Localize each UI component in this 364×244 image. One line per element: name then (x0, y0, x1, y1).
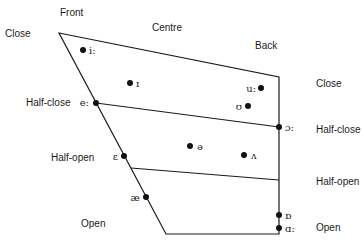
label-half-open-right: Half-open (316, 176, 359, 187)
label-close-left: Close (5, 28, 31, 39)
vowel-dot-icon (276, 124, 282, 130)
vowel-point: i: (80, 45, 96, 56)
vowel-point: ʊ (236, 101, 251, 112)
label-half-close-right: Half-close (316, 124, 361, 135)
label-open-right: Open (316, 222, 340, 233)
vowel-symbol: u: (246, 83, 256, 94)
vowel-symbol: ɛ (113, 151, 118, 162)
label-half-open-left: Half-open (51, 152, 94, 163)
vowel-point: u: (246, 83, 264, 94)
vowel-dot-icon (127, 80, 133, 86)
vowel-point: ɛ (113, 151, 127, 162)
vowel-dot-icon (276, 225, 282, 231)
height-divider-lines (96, 103, 279, 180)
vowel-symbol: e: (80, 97, 89, 108)
vowel-quadrilateral-outline (59, 33, 279, 234)
vowel-symbol: i: (89, 45, 96, 56)
vowel-dot-icon (245, 103, 251, 109)
vowel-point: ɪ (127, 78, 139, 89)
vowel-symbol: ʌ (250, 150, 257, 161)
vowel-dot-icon (121, 153, 127, 159)
vowel-dot-icon (187, 143, 193, 149)
vowel-dot-icon (258, 85, 264, 91)
vowel-symbol: æ (131, 192, 140, 203)
vowel-symbol: ə (197, 141, 203, 152)
vowel-dot-icon (93, 100, 99, 106)
vowel-dot-icon (143, 194, 149, 200)
half-open-line (131, 168, 279, 180)
vowel-symbol: ɒ (285, 210, 292, 221)
vowel-point: ə (187, 141, 203, 152)
vowel-point: e: (80, 97, 99, 108)
vowel-chart: i:ɪe:ɛæəʌu:ʊɔ:ɒɑ: FrontCentreBackCloseHa… (0, 0, 364, 244)
label-back: Back (255, 40, 278, 51)
quadrilateral-border (59, 33, 279, 234)
label-open-left: Open (81, 218, 105, 229)
vowel-dot-icon (276, 212, 282, 218)
axis-labels: FrontCentreBackCloseHalf-closeHalf-openO… (5, 7, 361, 233)
vowel-symbol: ɑ: (285, 223, 295, 234)
vowel-symbol: ɔ: (285, 122, 294, 133)
vowel-point: ʌ (241, 150, 257, 161)
label-half-close-left: Half-close (26, 97, 71, 108)
vowel-symbol: ʊ (236, 101, 242, 112)
vowel-dot-icon (241, 152, 247, 158)
vowel-dot-icon (80, 47, 86, 53)
label-front: Front (60, 7, 84, 18)
vowel-point: æ (131, 192, 149, 203)
label-close-right: Close (316, 78, 342, 89)
half-close-line (96, 103, 279, 127)
vowel-symbol: ɪ (136, 78, 139, 89)
label-centre: Centre (152, 22, 182, 33)
